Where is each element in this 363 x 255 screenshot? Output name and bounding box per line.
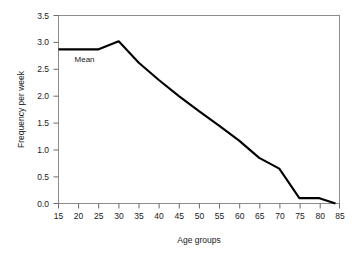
y-tick-label: 1.0 [37, 145, 49, 155]
x-tick-label: 20 [74, 211, 84, 221]
x-tick-label: 15 [54, 211, 64, 221]
mean-annotation-label: Mean [75, 55, 95, 64]
x-tick-labels: 15 20 25 30 35 40 45 50 55 60 65 70 75 8… [54, 211, 345, 221]
x-tick-label: 60 [235, 211, 245, 221]
x-tick-label: 70 [275, 211, 285, 221]
x-tick-label: 55 [215, 211, 225, 221]
y-tick-label: 3.0 [37, 37, 49, 47]
x-tick-label: 65 [255, 211, 265, 221]
x-tick-label: 80 [315, 211, 325, 221]
x-tick-label: 45 [175, 211, 185, 221]
chart-figure: 15 20 25 30 35 40 45 50 55 60 65 70 75 8… [0, 0, 363, 255]
y-tick-label: 3.5 [37, 11, 49, 21]
x-tick-label: 50 [195, 211, 205, 221]
x-tick-label: 85 [335, 211, 345, 221]
y-tick-label: 2.0 [37, 91, 49, 101]
y-tick-label: 2.5 [37, 64, 49, 74]
y-tick-label: 0.5 [37, 172, 49, 182]
x-tick-label: 40 [154, 211, 164, 221]
x-tick-label: 30 [114, 211, 124, 221]
x-tick-label: 75 [295, 211, 305, 221]
y-axis-title: Frequency per week [16, 70, 26, 148]
y-tick-label: 1.5 [37, 118, 49, 128]
x-axis-title: Age groups [177, 235, 220, 245]
y-tick-label: 0.0 [37, 199, 49, 209]
line-chart: 15 20 25 30 35 40 45 50 55 60 65 70 75 8… [0, 0, 363, 255]
x-tick-label: 25 [94, 211, 104, 221]
x-tick-label: 35 [134, 211, 144, 221]
